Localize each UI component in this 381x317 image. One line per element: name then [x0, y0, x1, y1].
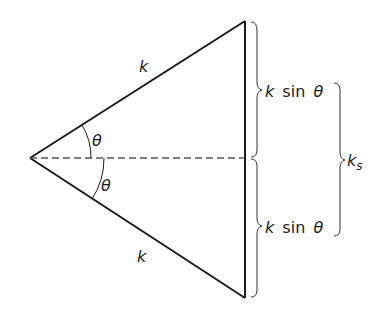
- total-ks-label: ks: [347, 151, 363, 173]
- upper-angle-label: θ: [92, 131, 102, 150]
- lower-side-k: [30, 158, 245, 298]
- lower-brace: [251, 159, 262, 297]
- lower-k-sin-theta: k sin θ: [265, 218, 323, 237]
- lower-angle-label: θ: [101, 176, 111, 195]
- triangle-diagram: k k θ θ k sin θ k sin θ ks: [0, 0, 381, 317]
- upper-side-k: [30, 21, 245, 158]
- lower-side-label: k: [137, 247, 147, 266]
- upper-k-sin-theta: k sin θ: [265, 82, 323, 101]
- upper-brace: [251, 22, 262, 157]
- upper-side-label: k: [139, 57, 149, 76]
- upper-angle-arc: [82, 125, 91, 158]
- total-brace: [334, 83, 345, 236]
